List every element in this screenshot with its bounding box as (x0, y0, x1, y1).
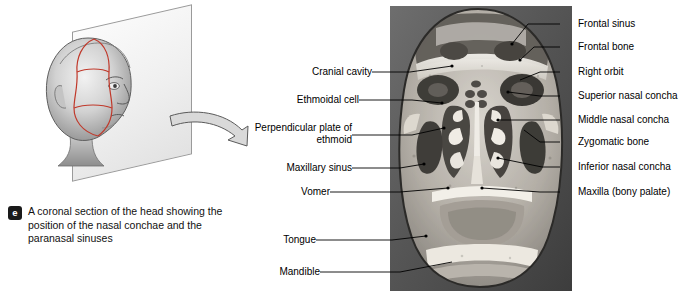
label-mandible: Mandible (240, 266, 320, 278)
figure-caption-text: A coronal section of the head showing th… (28, 205, 226, 246)
label-cranial-cavity: Cranial cavity (228, 66, 372, 78)
label-zygomatic-bone: Zygomatic bone (578, 136, 649, 148)
label-vomer: Vomer (240, 186, 330, 198)
label-frontal-sinus: Frontal sinus (578, 18, 635, 30)
label-middle-nasal-concha: Middle nasal concha (578, 114, 669, 126)
head-drawing (14, 24, 164, 174)
label-superior-nasal-concha: Superior nasal concha (578, 90, 678, 102)
label-maxillary-sinus: Maxillary sinus (215, 162, 352, 174)
figure-badge: e (8, 206, 22, 220)
label-maxilla-bony-palate: Maxilla (bony palate) (578, 186, 670, 198)
figure-root: e A coronal section of the head showing … (0, 0, 690, 297)
label-perpendicular-plate-of-ethmoid: Perpendicular plate of ethmoid (232, 122, 352, 145)
label-right-orbit: Right orbit (578, 66, 624, 78)
coronal-section-photograph (390, 6, 572, 291)
label-tongue: Tongue (240, 234, 316, 246)
head-illustration-panel: e A coronal section of the head showing … (0, 0, 300, 297)
label-inferior-nasal-concha: Inferior nasal concha (578, 161, 671, 173)
head-profile-illustration (14, 24, 164, 174)
label-frontal-bone: Frontal bone (578, 41, 634, 53)
figure-caption: e A coronal section of the head showing … (8, 205, 226, 246)
coronal-section-image (390, 6, 572, 291)
label-ethmoidal-cell: Ethmoidal cell (215, 94, 359, 106)
